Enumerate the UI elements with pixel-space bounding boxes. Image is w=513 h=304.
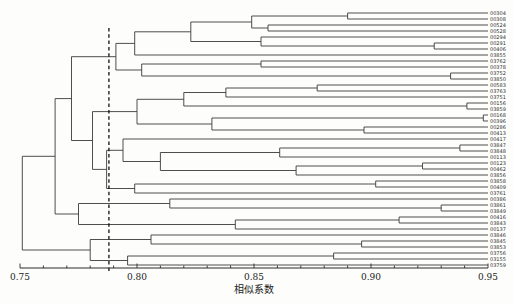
x-tick-label: 0.75 — [10, 272, 30, 282]
x-tick-label: 0.95 — [478, 272, 498, 282]
x-axis-title: 相似系数 — [234, 283, 274, 295]
leaf-label: 03759 — [490, 262, 506, 268]
x-tick-label: 0.80 — [127, 272, 147, 282]
dendrogram-figure: 0030400308005240052800294002910040603855… — [0, 0, 513, 304]
x-tick-label: 0.85 — [244, 272, 264, 282]
dendrogram-chart: 0030400308005240052800294002910040603855… — [0, 0, 513, 304]
dendrogram-branches — [22, 13, 488, 265]
x-tick-label: 0.90 — [361, 272, 381, 282]
